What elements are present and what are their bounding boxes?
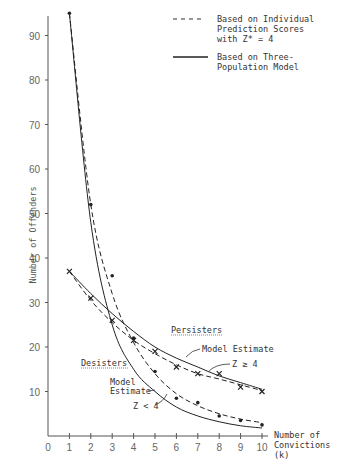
series-line [69,271,262,389]
x-tick-label: 7 [195,442,201,453]
y-tick-label: 90 [29,31,41,42]
x-tick-label: 10 [256,442,268,453]
dot-marker [217,414,221,418]
persisters-model-estimate-label: Model Estimate [202,344,274,354]
x-tick-label: 9 [238,442,244,453]
y-tick-label: 60 [29,164,41,175]
x-marker [195,371,200,376]
y-tick-label: 20 [29,342,41,353]
x-axis-label: Number of [274,430,320,440]
dot-marker [196,401,200,405]
y-tick-label: 10 [29,387,41,398]
y-tick-label: 80 [29,75,41,86]
axes: 012345678910102030405060708090Number of … [28,16,330,460]
legend-label: Population Model [217,62,299,72]
desisters-estimate-label: Estimate [110,386,151,396]
x-tick-label: 1 [67,442,73,453]
legend-label: with Z* = 4 [217,34,273,44]
dot-marker [239,419,243,423]
dot-marker [89,203,93,207]
x-axis-label: (k) [274,450,289,460]
series-line [69,271,262,390]
z-lt-4-label: Z < 4 [133,401,159,411]
legend-label: Based on Individual [217,14,314,24]
x-tick-label: 0 [45,442,51,453]
dot-marker [132,336,136,340]
dot-marker [110,274,114,278]
dot-marker [260,423,264,427]
x-tick-label: 2 [88,442,94,453]
x-marker [260,389,265,394]
z-ge-4-label: Z ≥ 4 [232,359,258,369]
dot-marker [68,11,72,15]
x-marker [153,349,158,354]
desisters-label: Desisters [81,358,127,368]
chart: 012345678910102030405060708090Number of … [0,0,339,470]
x-tick-label: 4 [131,442,137,453]
dot-marker [175,396,179,400]
x-tick-label: 8 [216,442,222,453]
x-tick-label: 3 [109,442,115,453]
legend-label: Prediction Scores [217,24,304,34]
x-tick-label: 5 [152,442,158,453]
x-axis-label: Convictions [274,440,330,450]
persisters-label: Persisters [171,325,222,335]
legend: Based on IndividualPrediction Scoreswith… [173,14,314,72]
y-tick-label: 70 [29,120,41,131]
y-axis-label: Number of Offenders [28,186,38,283]
x-tick-label: 6 [174,442,180,453]
y-tick-label: 30 [29,298,41,309]
legend-label: Based on Three- [217,52,294,62]
dot-marker [153,370,157,374]
x-marker [67,269,72,274]
